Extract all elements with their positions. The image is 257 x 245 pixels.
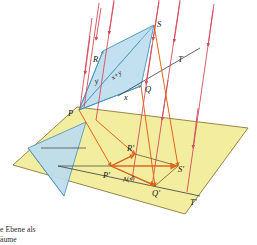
geometry-scene: P R S Q T P' R' S' Q' T' y x x+y A(x) — [0, 0, 257, 245]
label-S: S — [157, 19, 162, 29]
label-Q: Q — [145, 84, 151, 94]
ray-1-head — [96, 8, 101, 40]
label-vector-x: x — [123, 92, 128, 102]
ray-Q-head — [174, 2, 180, 42]
label-R: R — [92, 54, 99, 64]
caption-line-2: äume — [0, 235, 120, 244]
projection-figure: P R S Q T P' R' S' Q' T' y x x+y A(x) e … — [0, 0, 257, 245]
ray-T-head — [208, 10, 213, 46]
figure-caption: e Ebene als äume — [0, 225, 120, 244]
caption-line-1: e Ebene als — [0, 225, 120, 234]
label-P: P — [67, 108, 73, 118]
label-Q-image: Q' — [152, 188, 160, 198]
label-R-image: R' — [126, 143, 134, 153]
label-S-image: S' — [178, 164, 184, 174]
label-T: T — [178, 54, 184, 64]
ray-R-head — [109, 2, 114, 34]
label-T-image: T' — [190, 197, 197, 207]
label-P-image: P' — [102, 170, 110, 180]
